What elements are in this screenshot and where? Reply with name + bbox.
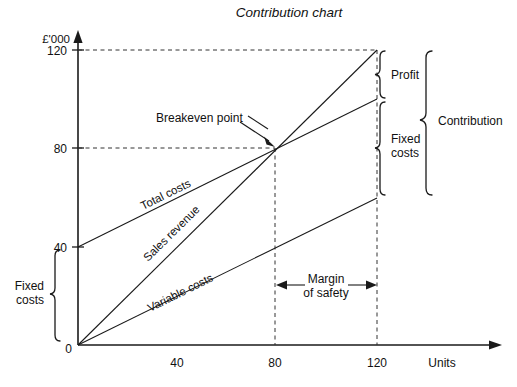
series-line-sales-revenue [78, 50, 377, 345]
breakeven-annotation: Breakeven point [156, 111, 275, 147]
breakeven-point-label: Breakeven point [156, 111, 243, 125]
fixed-costs-left-label-line1: Fixed [15, 279, 44, 293]
margin-of-safety-label-line1: Margin [308, 272, 345, 286]
x-axis-title: Units [428, 356, 455, 370]
contribution-chart-figure: Contribution chart £'000 120 80 40 0 40 [0, 0, 517, 387]
fixed-costs-right-label-line1: Fixed [391, 132, 420, 146]
margin-of-safety-left-arrowhead [276, 281, 287, 290]
fixed-costs-left-brace-group: Fixed costs [15, 250, 60, 341]
chart-title: Contribution chart [236, 5, 344, 20]
margin-of-safety-right-arrowhead [366, 281, 377, 290]
contribution-brace [420, 51, 432, 195]
fixed-costs-right-brace-group: Fixed costs [375, 102, 420, 195]
y-tick-label-0: 0 [65, 342, 72, 356]
x-axis [78, 340, 502, 349]
margin-of-safety-label-line2: of safety [303, 286, 348, 300]
series-label-variable-costs: Variable costs [146, 271, 216, 313]
y-axis-arrowhead [73, 30, 82, 43]
series-label-sales-revenue: Sales revenue [141, 203, 202, 263]
y-tick-label-80: 80 [54, 142, 68, 156]
x-tick-label-120: 120 [367, 356, 387, 370]
fixed-costs-right-label-line2: costs [391, 146, 419, 160]
x-tick-label-80: 80 [268, 356, 282, 370]
contribution-label: Contribution [438, 114, 503, 128]
x-axis-arrowhead [489, 340, 502, 349]
x-tick-label-40: 40 [170, 356, 184, 370]
profit-brace-group: Profit [375, 51, 420, 98]
fixed-costs-left-label-line2: costs [16, 293, 44, 307]
profit-label: Profit [391, 68, 420, 82]
fixed-costs-left-brace [50, 250, 60, 341]
y-axis [73, 30, 82, 345]
contribution-brace-group: Contribution [420, 51, 503, 195]
margin-of-safety-annotation: Margin of safety [276, 272, 377, 300]
y-tick-label-120: 120 [47, 44, 67, 58]
x-tick-group: 40 80 120 Units [170, 356, 455, 370]
breakeven-arrowhead [264, 137, 275, 148]
breakeven-leader-line [248, 116, 268, 129]
chart-canvas: Contribution chart £'000 120 80 40 0 40 [0, 0, 517, 387]
